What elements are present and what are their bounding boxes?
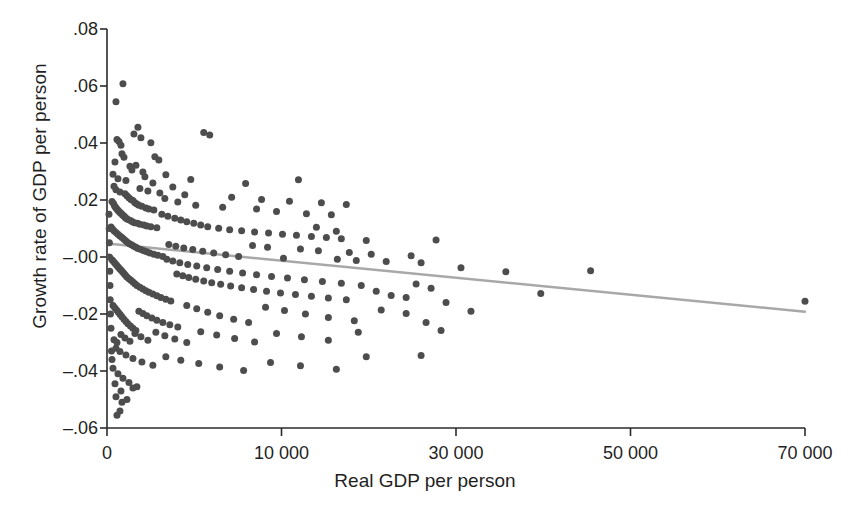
data-point (587, 267, 594, 274)
data-point (181, 191, 188, 198)
data-point (109, 365, 116, 372)
data-point (388, 292, 395, 299)
data-point (262, 304, 269, 311)
data-point (123, 396, 130, 403)
data-point (802, 298, 809, 305)
data-point (200, 129, 207, 136)
data-point (147, 139, 154, 146)
data-point (149, 179, 156, 186)
data-point (216, 312, 223, 319)
data-point (117, 142, 124, 149)
data-point (203, 264, 210, 271)
data-point (206, 132, 213, 139)
data-point (502, 268, 509, 275)
data-point (253, 206, 260, 213)
data-point (443, 299, 450, 306)
data-point (147, 223, 154, 230)
data-point (226, 226, 233, 233)
data-point (338, 280, 345, 287)
data-point (313, 224, 320, 231)
data-point (238, 227, 245, 234)
data-point (192, 276, 199, 283)
data-point (169, 257, 176, 264)
data-point (280, 255, 287, 262)
data-point (137, 134, 144, 141)
data-point (418, 352, 425, 359)
data-point (132, 162, 139, 169)
data-point (106, 254, 113, 261)
data-point (169, 183, 176, 190)
data-point (195, 360, 202, 367)
data-point (358, 282, 365, 289)
data-point (334, 256, 341, 263)
data-point (159, 319, 166, 326)
data-point (193, 305, 200, 312)
data-point (199, 248, 206, 255)
data-point (214, 266, 221, 273)
data-point (333, 228, 340, 235)
data-point (286, 198, 293, 205)
data-point (137, 333, 144, 340)
data-point (303, 210, 310, 217)
plot-canvas (0, 0, 850, 509)
scatter-plot-figure: Growth rate of GDP per person Real GDP p… (0, 0, 850, 509)
data-point (423, 319, 430, 326)
data-point (136, 185, 143, 192)
data-point (171, 336, 178, 343)
data-point (174, 324, 181, 331)
data-point (467, 308, 474, 315)
data-point (162, 171, 169, 178)
data-point (251, 338, 258, 345)
data-point (319, 278, 326, 285)
data-point (106, 268, 113, 275)
data-point (106, 225, 113, 232)
data-point (315, 247, 322, 254)
data-point (279, 231, 286, 238)
data-point (308, 233, 315, 240)
data-point (111, 380, 118, 387)
data-point (153, 224, 160, 231)
data-point (119, 80, 126, 87)
data-point (200, 277, 207, 284)
data-point (144, 337, 151, 344)
data-point (107, 325, 114, 332)
data-point (302, 311, 309, 318)
data-point (346, 249, 353, 256)
data-point (116, 348, 123, 355)
data-point (216, 364, 223, 371)
data-point (355, 329, 362, 336)
data-point (174, 198, 181, 205)
data-point (189, 246, 196, 253)
axes (100, 29, 805, 436)
data-point (144, 187, 151, 194)
data-point (150, 206, 157, 213)
data-point (131, 330, 138, 337)
data-point (418, 259, 425, 266)
data-point (273, 208, 280, 215)
data-point (180, 244, 187, 251)
data-point (130, 130, 137, 137)
data-point (208, 279, 215, 286)
data-point (122, 177, 129, 184)
data-point (297, 362, 304, 369)
data-point (193, 263, 200, 270)
data-point (222, 251, 229, 258)
data-point (264, 244, 271, 251)
data-point (183, 302, 190, 309)
data-point (177, 216, 184, 223)
data-point (273, 330, 280, 337)
data-point (226, 268, 233, 275)
data-point (138, 358, 145, 365)
x-tick-label: 50 000 (603, 443, 658, 464)
data-point (204, 309, 211, 316)
data-point (108, 356, 115, 363)
data-point (408, 252, 415, 259)
data-point (161, 332, 168, 339)
data-point (253, 271, 260, 278)
data-point (107, 311, 114, 318)
data-point (353, 257, 360, 264)
data-point (117, 387, 124, 394)
data-point (129, 385, 136, 392)
data-point (318, 199, 325, 206)
data-point (428, 285, 435, 292)
